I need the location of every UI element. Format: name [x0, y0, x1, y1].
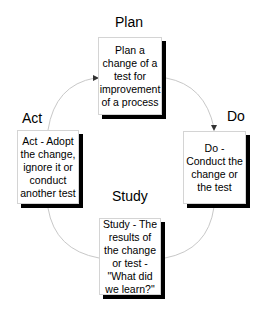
act-label: Act — [22, 110, 42, 126]
study-label: Study — [112, 188, 148, 204]
do-label: Do — [227, 108, 245, 124]
study-description: Study - The results of the change or tes… — [102, 218, 158, 296]
act-description: Act - Adopt the change, ignore it or con… — [20, 135, 76, 200]
study-box: Study - The results of the change or tes… — [99, 218, 161, 295]
plan-description: Plan a change of a test for improvement … — [100, 44, 161, 109]
arc-do-to-study — [165, 207, 214, 258]
arc-study-to-act — [48, 208, 99, 258]
arc-act-to-plan — [48, 78, 95, 130]
arc-plan-to-do — [166, 78, 214, 128]
do-description: Do - Conduct the change or the test — [186, 142, 243, 194]
plan-label: Plan — [115, 14, 143, 30]
act-box: Act - Adopt the change, ignore it or con… — [17, 130, 79, 204]
do-box: Do - Conduct the change or the test — [183, 131, 246, 204]
plan-box: Plan a change of a test for improvement … — [98, 37, 162, 115]
